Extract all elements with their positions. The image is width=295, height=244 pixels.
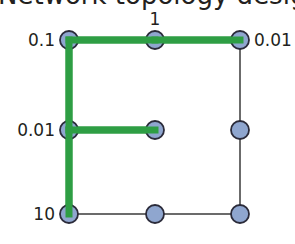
diagram-title: Network topology design (0, 0, 295, 10)
node-n22 (231, 205, 249, 223)
node-label-n02: 0.01 (254, 30, 292, 50)
nodes (60, 31, 249, 223)
node-label-n01: 1 (150, 9, 161, 29)
node-n21 (146, 205, 164, 223)
node-n12 (231, 121, 249, 139)
node-label-n00: 0.1 (28, 30, 55, 50)
topology-diagram: Network topology design 0.110.010.0110 (0, 0, 295, 244)
node-label-n10: 0.01 (17, 120, 55, 140)
node-label-n20: 10 (33, 204, 55, 224)
